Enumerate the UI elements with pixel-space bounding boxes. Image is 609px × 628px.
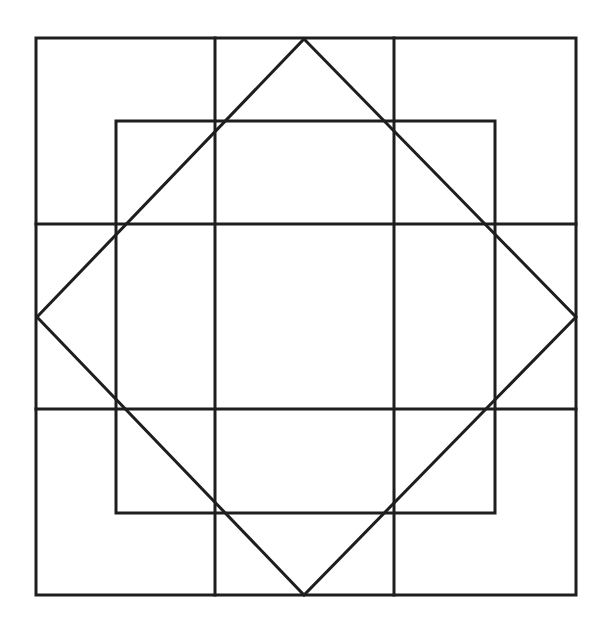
- geometric-diagram: [0, 0, 609, 628]
- inner-square: [116, 121, 495, 513]
